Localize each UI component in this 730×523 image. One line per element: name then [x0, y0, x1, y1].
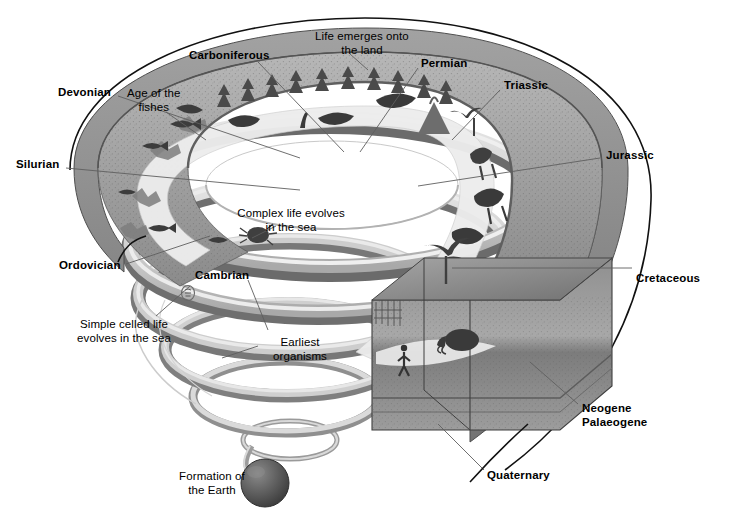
label-permian: Permian — [421, 57, 467, 71]
label-formation-of-earth: Formation of the Earth — [166, 470, 258, 497]
label-life-emerges: Life emerges onto the land — [302, 30, 422, 57]
label-triassic: Triassic — [504, 79, 548, 93]
label-silurian: Silurian — [16, 158, 59, 172]
label-carboniferous: Carboniferous — [189, 49, 270, 63]
label-cretaceous: Cretaceous — [636, 272, 700, 286]
label-cambrian: Cambrian — [195, 269, 249, 283]
geological-time-spiral-diagram: Silurian Devonian Carboniferous Permian … — [0, 0, 730, 523]
label-quaternary: Quaternary — [487, 469, 550, 483]
label-jurassic: Jurassic — [606, 149, 654, 163]
label-complex-life: Complex life evolves in the sea — [216, 207, 366, 234]
label-age-of-fishes: Age of the fishes — [127, 87, 180, 114]
label-neogene-palaeogene: Neogene Palaeogene — [582, 402, 647, 429]
label-earliest-organisms: Earliest organisms — [258, 336, 342, 363]
label-ordovician: Ordovician — [59, 259, 121, 273]
label-devonian: Devonian — [58, 86, 111, 100]
label-simple-celled-life: Simple celled life evolves in the sea — [60, 318, 188, 345]
